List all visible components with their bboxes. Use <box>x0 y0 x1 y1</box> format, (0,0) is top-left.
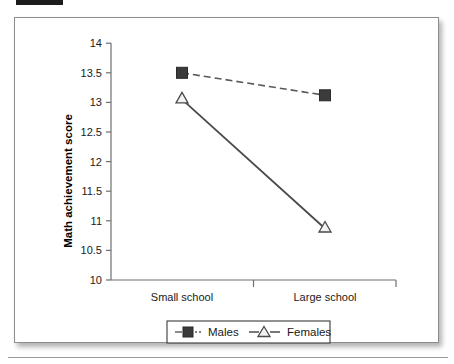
chart-legend: Males Females <box>167 321 331 343</box>
x-tick-label-large-school: Large school <box>294 291 357 303</box>
data-point-females-small-school <box>176 92 188 103</box>
page-bottom-rule <box>8 357 448 358</box>
y-axis-ticks: 10 10.5 11 11.5 12 12.5 13 13.5 14 <box>81 37 111 286</box>
y-tick-label: 12.5 <box>81 126 102 138</box>
y-tick-label: 11 <box>91 215 102 227</box>
legend-males-marker <box>183 327 193 337</box>
y-tick-label: 13 <box>90 96 102 108</box>
y-axis-title: Math achievement score <box>62 114 74 248</box>
page-header-bar-fragment <box>16 0 63 5</box>
legend-label-males: Males <box>208 326 239 338</box>
series-females <box>176 92 331 232</box>
data-point-males-large-school <box>320 90 331 101</box>
series-females-line <box>182 99 325 228</box>
y-tick-label: 12 <box>90 156 102 168</box>
y-tick-label: 10.5 <box>81 244 102 256</box>
x-tick-label-small-school: Small school <box>151 291 213 303</box>
y-tick-label: 13.5 <box>81 67 102 79</box>
interaction-line-chart: Math achievement score 10 10.5 11 11.5 1… <box>15 18 440 344</box>
y-tick-label: 10 <box>90 274 102 286</box>
series-males-line <box>182 73 325 96</box>
x-axis-ticks <box>254 280 397 287</box>
y-tick-label: 14 <box>90 37 102 49</box>
data-point-females-large-school <box>319 222 331 233</box>
data-point-males-small-school <box>177 67 188 78</box>
y-tick-label: 11.5 <box>81 185 102 197</box>
series-males <box>177 67 331 101</box>
legend-label-females: Females <box>287 326 331 338</box>
figure-card: Math achievement score 10 10.5 11 11.5 1… <box>14 17 439 343</box>
